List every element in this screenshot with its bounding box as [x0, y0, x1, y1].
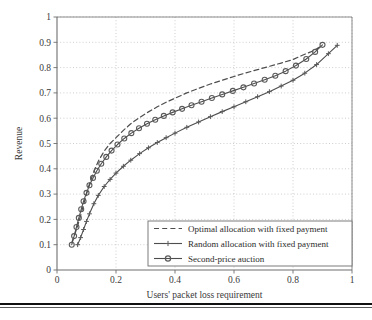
legend-label: Random allocation with fixed payment [188, 239, 329, 249]
x-tick-label: 0.2 [110, 275, 122, 285]
figure-container: 00.20.40.60.8100.10.20.30.40.50.60.70.80… [0, 0, 372, 320]
y-tick-label: 0.8 [39, 63, 51, 73]
y-tick-label: 0.4 [39, 164, 51, 174]
x-tick-label: 0.6 [228, 275, 240, 285]
x-axis-title: Users' packet loss requirement [147, 290, 263, 300]
axis-titles: Users' packet loss requirementRevenue [14, 127, 263, 300]
y-tick-label: 0.3 [39, 189, 51, 199]
y-tick-label: 0.6 [39, 114, 51, 124]
legend-label: Optimal allocation with fixed payment [188, 224, 328, 234]
x-tick-label: 0 [55, 275, 60, 285]
revenue-vs-packet-loss-chart: 00.20.40.60.8100.10.20.30.40.50.60.70.80… [0, 0, 372, 320]
page-separator-rule-thin [0, 307, 372, 308]
x-tick-label: 1 [350, 275, 355, 285]
x-tick-label: 0.4 [169, 275, 181, 285]
y-tick-label: 0.1 [39, 240, 51, 250]
y-tick-label: 0.7 [39, 88, 51, 98]
data-curves [69, 42, 339, 247]
page-separator-rule-thick [0, 303, 372, 305]
y-tick-label: 0 [46, 265, 51, 275]
series-path-0 [72, 45, 323, 242]
y-tick-label: 1 [46, 12, 51, 22]
y-axis-title: Revenue [14, 127, 24, 160]
series-path-2 [72, 45, 323, 245]
legend: Optimal allocation with fixed paymentRan… [148, 221, 352, 266]
x-tick-label: 0.8 [287, 275, 299, 285]
y-tick-label: 0.9 [39, 38, 51, 48]
y-tick-label: 0.5 [39, 139, 51, 149]
legend-label: Second-price auction [188, 254, 265, 264]
y-tick-label: 0.2 [39, 215, 51, 225]
